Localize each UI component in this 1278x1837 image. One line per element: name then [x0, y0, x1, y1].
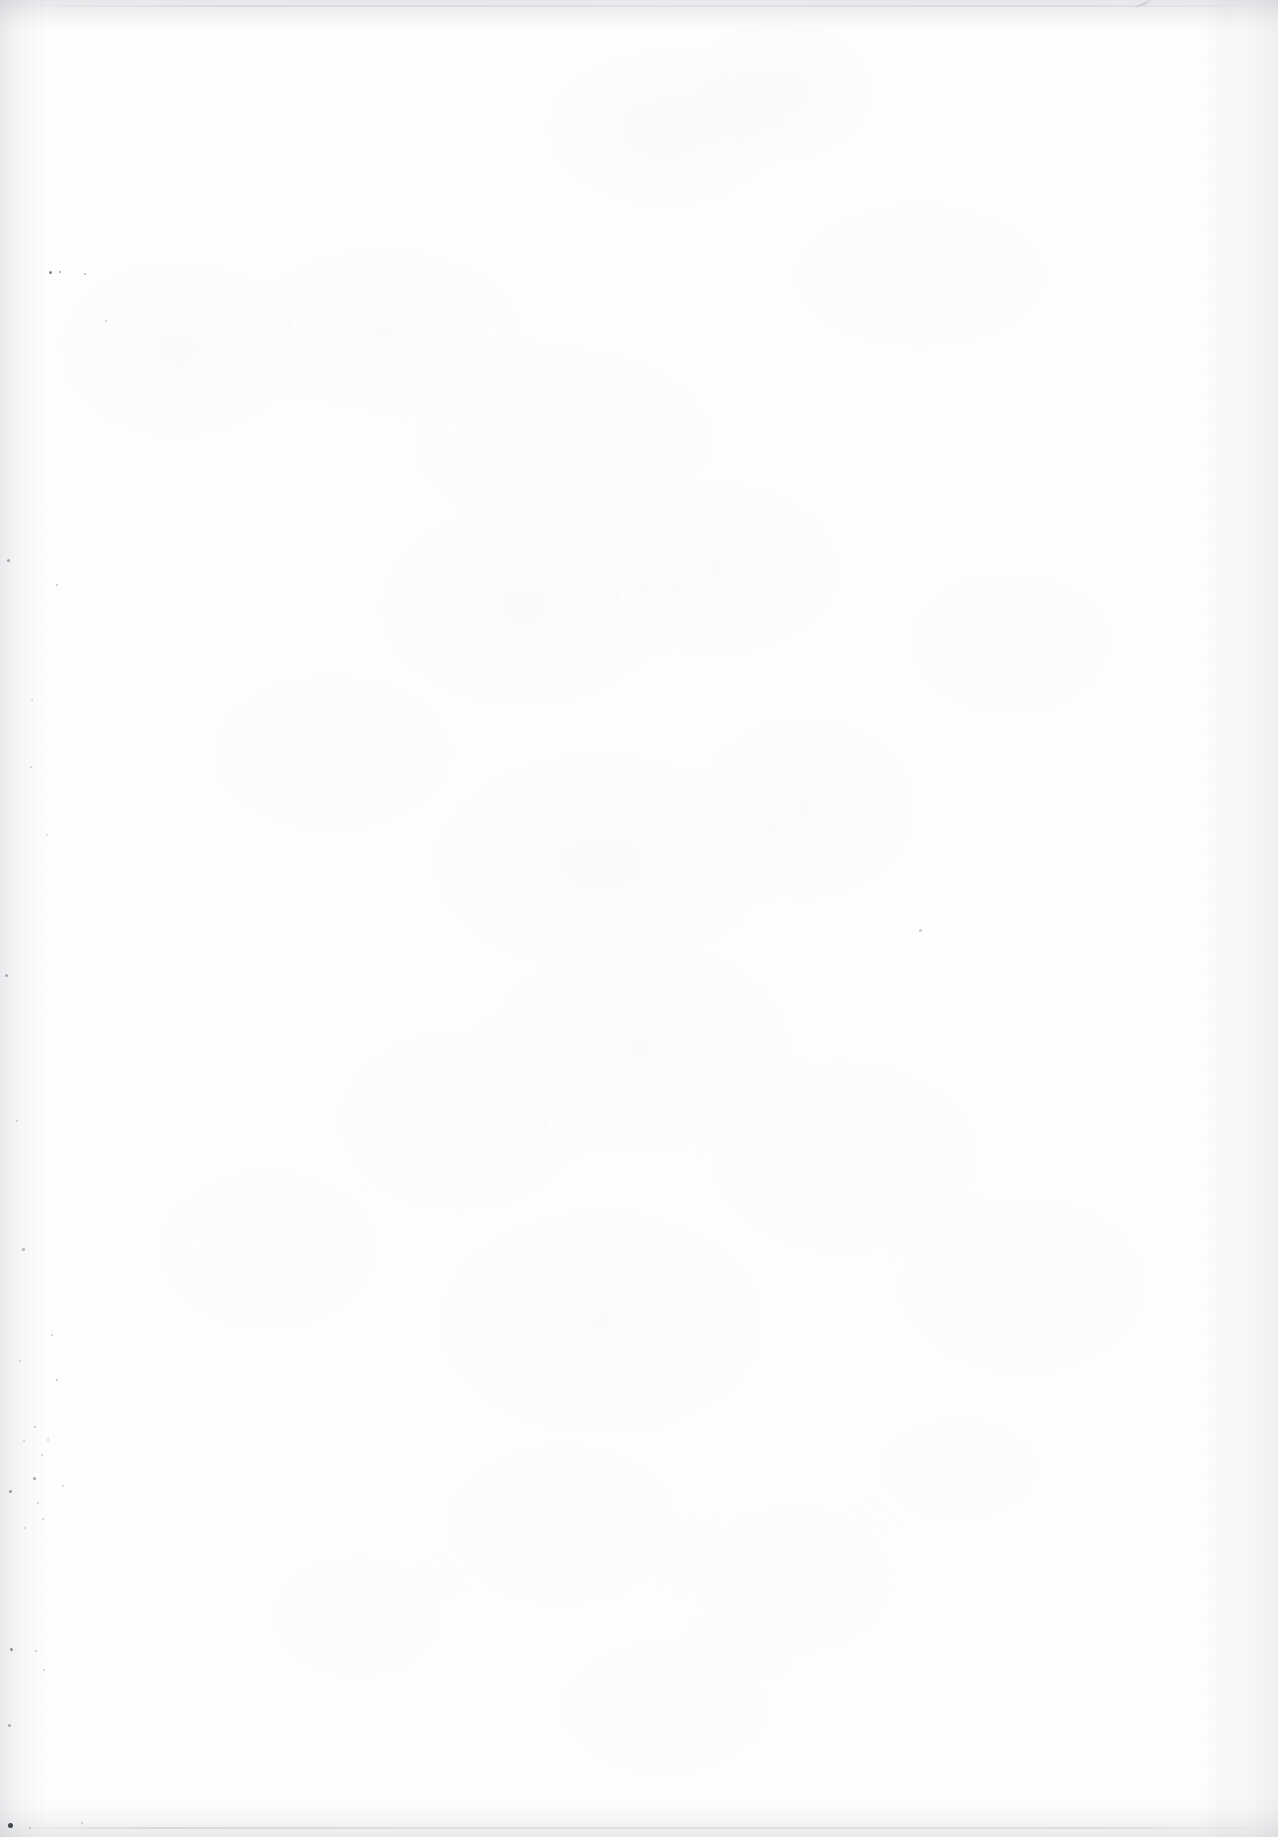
scanned-page: Blank scanned page: [0, 0, 1278, 1837]
paper-background: [0, 0, 1278, 1837]
